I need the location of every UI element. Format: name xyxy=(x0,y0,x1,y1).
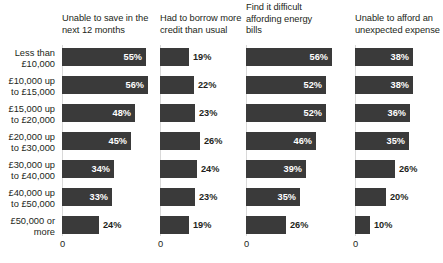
bar xyxy=(160,104,195,122)
panel-title-2: Had to borrow more credit than usual xyxy=(160,13,250,36)
bar xyxy=(160,160,197,178)
bar-row: 52% xyxy=(246,76,350,94)
axis-tick-zero: 0 xyxy=(244,239,249,250)
axis-tick-zero: 0 xyxy=(60,239,65,250)
bar-row: 10% xyxy=(355,216,439,234)
panel-title-3: Find it difficult affording energy bills xyxy=(246,2,346,37)
bar-value-label: 56% xyxy=(62,76,144,94)
bar-row: 56% xyxy=(62,76,154,94)
bar-value-label: 19% xyxy=(193,216,211,234)
category-label: £20,000 up to £30,000 xyxy=(0,129,58,157)
panel-title-4: Unable to afford an unexpected expense xyxy=(355,13,443,36)
bar-value-label: 38% xyxy=(355,76,409,94)
bar-row: 26% xyxy=(355,160,439,178)
bar-row: 52% xyxy=(246,104,350,122)
bar-row: 23% xyxy=(160,104,240,122)
bar-value-label: 35% xyxy=(355,132,405,150)
bar-value-label: 24% xyxy=(103,216,121,234)
bar xyxy=(355,216,370,234)
bar-row: 36% xyxy=(355,104,439,122)
bar-value-label: 23% xyxy=(199,104,217,122)
bar xyxy=(160,132,200,150)
category-axis-labels: Less than £10,000£10,000 up to £15,000£1… xyxy=(0,45,58,241)
category-label: £30,000 up to £40,000 xyxy=(0,157,58,185)
bar-row: 26% xyxy=(160,132,240,150)
bar-value-label: 52% xyxy=(246,76,322,94)
grouped-bar-chart: Unable to save in the next 12 monthsHad … xyxy=(0,0,443,263)
bar-row: 48% xyxy=(62,104,154,122)
category-label: £40,000 up to £50,000 xyxy=(0,185,58,213)
category-label: £15,000 up to £20,000 xyxy=(0,101,58,129)
category-label: Less than £10,000 xyxy=(0,45,58,73)
chart-panel-4: 38%38%36%35%26%20%10%0 xyxy=(355,45,439,241)
bar-row: 24% xyxy=(62,216,154,234)
bar-row: 45% xyxy=(62,132,154,150)
bar-value-label: 45% xyxy=(62,132,127,150)
axis-tick-zero: 0 xyxy=(158,239,163,250)
bar-value-label: 56% xyxy=(246,48,328,66)
bar-row: 38% xyxy=(355,76,439,94)
bar-value-label: 26% xyxy=(290,216,308,234)
bar-value-label: 39% xyxy=(246,160,302,178)
bar-row: 35% xyxy=(246,188,350,206)
bar-value-label: 52% xyxy=(246,104,322,122)
bar-row: 46% xyxy=(246,132,350,150)
panel-title-1: Unable to save in the next 12 months xyxy=(62,13,160,36)
bar-row: 26% xyxy=(246,216,350,234)
axis-tick-zero: 0 xyxy=(353,239,358,250)
bar xyxy=(160,188,195,206)
bar-row: 39% xyxy=(246,160,350,178)
category-label: £50,000 or more xyxy=(0,213,58,241)
bar-row: 38% xyxy=(355,48,439,66)
chart-panel-1: 55%56%48%45%34%33%24%0 xyxy=(62,45,154,241)
bar-row: 22% xyxy=(160,76,240,94)
bar xyxy=(160,76,194,94)
bar xyxy=(160,48,189,66)
bar-value-label: 26% xyxy=(399,160,417,178)
category-label: £10,000 up to £15,000 xyxy=(0,73,58,101)
bar-value-label: 19% xyxy=(193,48,211,66)
bar-value-label: 35% xyxy=(246,188,296,206)
bar-row: 56% xyxy=(246,48,350,66)
bar-row: 35% xyxy=(355,132,439,150)
bar-value-label: 33% xyxy=(62,188,108,206)
bar-value-label: 23% xyxy=(199,188,217,206)
bar-row: 19% xyxy=(160,48,240,66)
bar xyxy=(246,216,286,234)
bar-value-label: 55% xyxy=(62,48,142,66)
bar-row: 55% xyxy=(62,48,154,66)
bar xyxy=(355,188,386,206)
bar-value-label: 46% xyxy=(246,132,312,150)
bar-value-label: 22% xyxy=(198,76,216,94)
bar-row: 34% xyxy=(62,160,154,178)
bar-row: 23% xyxy=(160,188,240,206)
bar xyxy=(355,160,395,178)
bar-value-label: 26% xyxy=(204,132,222,150)
bar-value-label: 36% xyxy=(355,104,406,122)
bar xyxy=(62,216,99,234)
bar-value-label: 38% xyxy=(355,48,409,66)
bar-value-label: 10% xyxy=(374,216,392,234)
bar-value-label: 24% xyxy=(201,160,219,178)
chart-panel-3: 56%52%52%46%39%35%26%0 xyxy=(246,45,350,241)
bar-row: 19% xyxy=(160,216,240,234)
bar-value-label: 48% xyxy=(62,104,131,122)
bar-value-label: 34% xyxy=(62,160,110,178)
chart-panel-2: 19%22%23%26%24%23%19%0 xyxy=(160,45,240,241)
bar xyxy=(160,216,189,234)
bar-row: 20% xyxy=(355,188,439,206)
bar-row: 33% xyxy=(62,188,154,206)
bar-value-label: 20% xyxy=(390,188,408,206)
bar-row: 24% xyxy=(160,160,240,178)
